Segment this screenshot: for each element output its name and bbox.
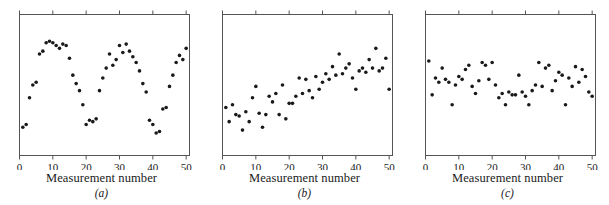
x-tick-label: 0: [220, 161, 226, 171]
data-point: [138, 69, 142, 73]
data-point-group: [224, 47, 391, 132]
data-point: [584, 75, 588, 79]
data-point: [474, 92, 478, 96]
data-point: [291, 102, 295, 106]
data-point: [334, 73, 338, 77]
data-point: [108, 52, 112, 56]
data-point: [34, 80, 38, 84]
data-point: [454, 83, 458, 87]
data-point: [381, 66, 385, 70]
data-point: [58, 47, 62, 51]
data-point: [331, 65, 335, 69]
data-point: [134, 61, 138, 65]
data-point: [48, 39, 52, 43]
data-point: [577, 80, 581, 84]
data-point: [144, 90, 148, 94]
data-point: [560, 73, 564, 77]
data-point: [124, 42, 128, 46]
data-point: [281, 83, 285, 87]
data-point: [557, 71, 561, 75]
data-point: [537, 61, 541, 65]
data-point: [184, 47, 188, 51]
data-point: [470, 85, 474, 89]
x-tick-label: 20: [81, 161, 93, 171]
scatter-plot-c: 01020304050: [406, 0, 609, 170]
data-point: [387, 87, 391, 91]
data-point: [427, 59, 431, 63]
data-point: [114, 58, 118, 62]
data-point: [317, 87, 321, 91]
data-point: [480, 61, 484, 65]
data-point: [41, 49, 45, 53]
data-point: [294, 94, 298, 98]
data-point: [274, 92, 278, 96]
data-point: [447, 80, 451, 84]
data-point: [567, 76, 571, 80]
data-point: [327, 78, 331, 82]
data-point: [297, 76, 301, 80]
data-point: [530, 89, 534, 93]
data-point: [277, 113, 281, 117]
data-point: [361, 66, 365, 70]
data-point: [271, 100, 275, 104]
x-tick-label: 0: [17, 161, 23, 171]
panel-a: 01020304050 Measurement number (a): [0, 0, 203, 205]
data-point: [540, 85, 544, 89]
x-tick-label: 20: [487, 161, 499, 171]
data-point: [554, 79, 558, 83]
data-point: [284, 117, 288, 121]
data-point: [148, 118, 152, 122]
data-point: [364, 71, 368, 75]
data-point: [164, 106, 168, 110]
data-point: [430, 93, 434, 97]
data-point: [251, 96, 255, 100]
data-point: [324, 72, 328, 76]
data-point: [534, 83, 538, 87]
data-point: [101, 76, 105, 80]
data-point: [547, 63, 551, 67]
data-point: [467, 63, 471, 67]
data-point: [304, 78, 308, 82]
data-point: [477, 79, 481, 83]
data-point: [570, 85, 574, 89]
x-tick-label: 30: [317, 161, 329, 171]
data-point: [287, 102, 291, 106]
data-point: [494, 83, 498, 87]
data-point: [354, 87, 358, 91]
data-point: [71, 73, 75, 77]
data-point: [580, 68, 584, 72]
data-point: [84, 123, 88, 127]
data-point: [587, 90, 591, 94]
scatter-plot-b: 01020304050: [203, 0, 406, 170]
data-point: [520, 90, 524, 94]
plot-frame: [20, 15, 190, 156]
scatter-plot-a: 01020304050: [0, 0, 203, 170]
data-point: [74, 82, 78, 86]
data-point: [337, 52, 341, 56]
data-point: [307, 89, 311, 93]
data-point: [44, 41, 48, 45]
data-point: [237, 114, 241, 118]
data-point: [374, 47, 378, 51]
figure-container: 01020304050 Measurement number (a) 01020…: [0, 0, 609, 205]
data-point: [517, 73, 521, 77]
data-point: [94, 117, 98, 121]
data-point: [88, 118, 92, 122]
data-point: [21, 126, 25, 130]
data-point: [527, 103, 531, 107]
data-point: [54, 44, 58, 48]
data-point: [98, 89, 102, 93]
data-point: [377, 69, 381, 73]
data-point: [104, 66, 108, 70]
data-point: [111, 63, 115, 67]
data-point: [28, 96, 32, 100]
data-point: [128, 49, 132, 53]
panel-caption-c: (c): [406, 187, 609, 199]
data-point: [168, 85, 172, 89]
plot-frame: [223, 15, 393, 156]
data-point: [460, 78, 464, 82]
x-tick-label: 30: [520, 161, 532, 171]
data-point: [434, 76, 438, 80]
data-point: [371, 66, 375, 70]
data-point: [367, 58, 371, 62]
